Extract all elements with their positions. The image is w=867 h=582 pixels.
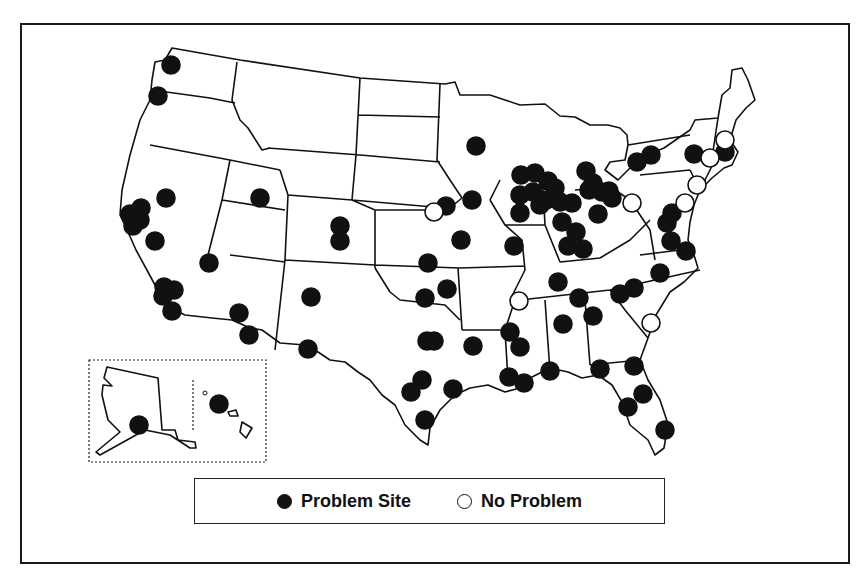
- problem-site-marker: [515, 374, 533, 392]
- problem-site-marker: [444, 380, 462, 398]
- problem-site-marker: [251, 189, 269, 207]
- no-problem-site-marker: [425, 203, 443, 221]
- problem-site-marker: [124, 217, 142, 235]
- problem-site-marker: [634, 385, 652, 403]
- problem-site-marker: [651, 264, 669, 282]
- problem-site-marker: [505, 237, 523, 255]
- problem-site-marker: [625, 279, 643, 297]
- no-problem-site-marker: [510, 292, 528, 310]
- problem-site-marker: [677, 242, 695, 260]
- legend-label-problem-site: Problem Site: [301, 491, 411, 512]
- problem-site-marker: [163, 302, 181, 320]
- problem-site-marker: [563, 194, 581, 212]
- problem-site-marker: [656, 421, 674, 439]
- problem-site-marker: [331, 232, 349, 250]
- problem-site-marker: [210, 395, 228, 413]
- filled-circle-icon: [277, 494, 292, 509]
- problem-site-marker: [157, 189, 175, 207]
- problem-site-marker: [574, 240, 592, 258]
- problem-site-marker: [511, 338, 529, 356]
- problem-site-marker: [554, 315, 572, 333]
- state-outlines: [120, 48, 755, 455]
- problem-site-marker: [541, 362, 559, 380]
- no-problem-site-marker: [701, 149, 719, 167]
- problem-site-marker: [549, 273, 567, 291]
- problem-site-marker: [416, 411, 434, 429]
- inset-alaska-hawaii: [89, 360, 266, 462]
- problem-site-marker: [149, 87, 167, 105]
- problem-site-marker: [625, 357, 643, 375]
- problem-site-marker: [591, 360, 609, 378]
- problem-site-marker: [230, 304, 248, 322]
- no-problem-site-marker: [716, 131, 734, 149]
- problem-site-marker: [685, 145, 703, 163]
- map-legend: Problem Site No Problem: [194, 478, 665, 524]
- problem-site-marker: [416, 289, 434, 307]
- problem-site-marker: [419, 254, 437, 272]
- problem-site-marker: [603, 189, 621, 207]
- no-problem-site-marker: [623, 194, 641, 212]
- problem-site-marker: [402, 383, 420, 401]
- problem-site-marker: [240, 326, 258, 344]
- problem-site-marker: [589, 205, 607, 223]
- alaska-outline: [96, 367, 196, 455]
- problem-site-marker: [452, 231, 470, 249]
- problem-site-marker: [531, 196, 549, 214]
- problem-site-marker: [584, 307, 602, 325]
- problem-site-marker: [299, 340, 317, 358]
- problem-site-marker: [463, 191, 481, 209]
- problem-site-marker: [467, 137, 485, 155]
- no-problem-site-marker: [688, 176, 706, 194]
- legend-label-no-problem: No Problem: [481, 491, 582, 512]
- legend-item-problem-site: Problem Site: [277, 491, 411, 512]
- problem-site-marker: [511, 204, 529, 222]
- problem-site-marker: [438, 280, 456, 298]
- problem-site-marker: [130, 416, 148, 434]
- no-problem-site-marker: [676, 194, 694, 212]
- problem-site-marker: [642, 146, 660, 164]
- problem-site-marker: [162, 56, 180, 74]
- no-problem-site-marker: [642, 314, 660, 332]
- legend-item-no-problem: No Problem: [457, 491, 582, 512]
- problem-site-marker: [570, 289, 588, 307]
- problem-site-marker: [200, 254, 218, 272]
- problem-site-marker: [146, 232, 164, 250]
- problem-site-marker: [619, 398, 637, 416]
- problem-site-marker: [425, 332, 443, 350]
- problem-site-marker: [464, 337, 482, 355]
- problem-site-marker: [302, 288, 320, 306]
- problem-site-marker: [658, 214, 676, 232]
- open-circle-icon: [457, 494, 472, 509]
- problem-site-markers: [121, 56, 734, 439]
